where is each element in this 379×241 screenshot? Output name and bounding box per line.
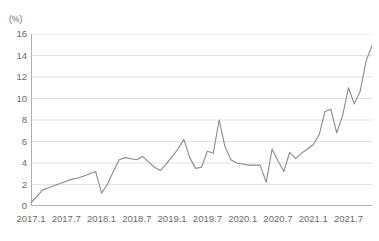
- gridlines: [31, 34, 372, 185]
- x-axis-tick-label: 2018.7: [122, 213, 151, 224]
- y-axis-tick-label: 8: [3, 115, 27, 125]
- y-axis-tick-label: 4: [3, 158, 27, 168]
- y-axis-tick-label: 12: [3, 72, 27, 82]
- y-axis-tick-label: 16: [3, 29, 27, 39]
- x-axis-tick-label: 2019.7: [193, 213, 222, 224]
- y-axis-tick-label: 14: [3, 51, 27, 61]
- data-series-line: [31, 46, 372, 203]
- x-axis-tick-label: 2019.1: [158, 213, 187, 224]
- y-axis-tick-label: 6: [3, 137, 27, 147]
- chart-svg: [31, 34, 372, 206]
- x-axis-tick-label: 2021.1: [299, 213, 328, 224]
- x-axis-tick-label: 2021.7: [334, 213, 363, 224]
- x-axis-tick-labels: 2017.12017.72018.12018.72019.12019.72020…: [0, 213, 379, 229]
- plot-area: [31, 34, 372, 206]
- chart-title: [0, 0, 379, 2]
- x-axis-tick-label: 2017.1: [16, 213, 45, 224]
- x-axis-tick-label: 2017.7: [52, 213, 81, 224]
- y-axis-tick-labels: 0246810121416: [0, 34, 27, 206]
- y-axis-tick-label: 0: [3, 201, 27, 211]
- y-axis-tick-label: 2: [3, 180, 27, 190]
- x-axis-tick-label: 2018.1: [87, 213, 116, 224]
- x-axis-tick-label: 2020.7: [263, 213, 292, 224]
- y-axis-unit-label: (%): [9, 14, 22, 24]
- x-axis-tick-label: 2020.1: [228, 213, 257, 224]
- y-axis-tick-label: 10: [3, 94, 27, 104]
- line-chart: (%) 0246810121416 2017.12017.72018.12018…: [0, 0, 379, 241]
